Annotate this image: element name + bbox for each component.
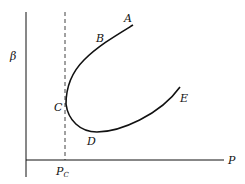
diagram-canvas: β P PC A B C D E <box>0 0 245 184</box>
point-a-label: A <box>123 12 132 25</box>
pc-label: PC <box>55 165 69 179</box>
x-axis-label: P <box>227 154 236 167</box>
point-c-label: C <box>54 101 63 114</box>
curve <box>66 25 180 132</box>
point-e-label: E <box>179 92 188 105</box>
y-axis-label: β <box>9 50 16 63</box>
point-d-label: D <box>86 135 96 148</box>
point-b-label: B <box>95 32 104 45</box>
